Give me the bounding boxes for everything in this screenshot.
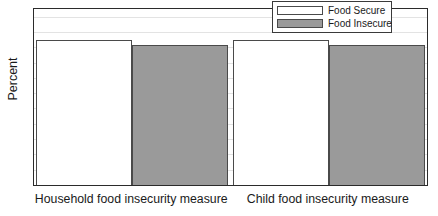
y-axis-tick-mark [33, 62, 34, 63]
y-axis-tick-mark [33, 138, 34, 139]
chart-legend: Food Secure Food Insecure [272, 1, 392, 33]
x-axis-category-label: Household food insecurity measure [35, 192, 228, 206]
y-axis-title: Percent [6, 34, 20, 124]
y-axis-tick-mark [33, 123, 34, 124]
y-axis-tick-mark [33, 92, 34, 93]
legend-swatch-food-insecure [277, 19, 323, 28]
y-axis-tick-mark [33, 16, 34, 17]
y-axis-tick-mark [33, 31, 34, 32]
legend-label-food-secure: Food Secure [328, 5, 385, 16]
bar-food-secure [36, 40, 132, 185]
bar-food-insecure [132, 45, 228, 185]
legend-swatch-food-secure [277, 6, 323, 15]
y-axis-tick-mark [33, 108, 34, 109]
legend-item-food-secure: Food Secure [277, 5, 387, 16]
y-axis-tick-mark [33, 77, 34, 78]
y-axis-tick-mark [33, 184, 34, 185]
x-axis-category-label: Child food insecurity measure [247, 192, 409, 206]
y-axis-tick-mark [33, 154, 34, 155]
plot-area: 0510152025303540455055 [33, 8, 428, 186]
bar-food-insecure [329, 45, 425, 185]
y-axis-tick-mark [33, 169, 34, 170]
legend-item-food-insecure: Food Insecure [277, 18, 387, 29]
bar-food-secure [233, 40, 329, 185]
y-axis-tick-mark [33, 47, 34, 48]
bar-chart: Percent 0510152025303540455055 Food Secu… [0, 0, 438, 216]
legend-label-food-insecure: Food Insecure [328, 18, 392, 29]
